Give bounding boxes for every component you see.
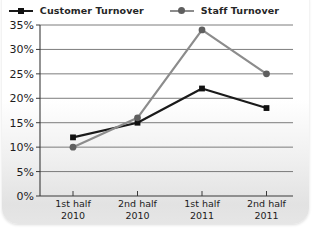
staff-turnover-point xyxy=(70,144,77,151)
y-axis-tick-label: 20% xyxy=(10,92,34,105)
customer-turnover-square-marker-icon xyxy=(9,6,33,16)
y-axis-tick-label: 10% xyxy=(10,141,34,154)
x-axis-category-label: 1st half2010 xyxy=(55,198,91,221)
x-axis-category-label: 1st half2011 xyxy=(184,198,220,221)
staff-turnover-point xyxy=(134,114,141,121)
customer-turnover-point xyxy=(199,86,205,92)
y-axis-tick-label: 25% xyxy=(10,68,34,81)
y-axis-tick-label: 35% xyxy=(10,19,34,32)
x-axis-category-label: 2nd half2010 xyxy=(118,198,158,221)
y-axis-tick-label: 30% xyxy=(10,43,34,56)
x-axis-category-label: 2nd half2011 xyxy=(247,198,287,221)
staff-turnover-circle-marker-icon xyxy=(170,6,194,16)
turnover-line-chart: 0%5%10%15%20%25%30%35%1st half20102nd ha… xyxy=(0,0,312,235)
customer-turnover-point xyxy=(264,105,270,111)
staff-turnover-point xyxy=(199,26,206,33)
y-axis-tick-label: 0% xyxy=(17,190,34,203)
y-axis-tick-label: 15% xyxy=(10,117,34,130)
chart-legend: Customer Turnover Staff Turnover xyxy=(0,5,300,16)
legend-item-staff-turnover: Staff Turnover xyxy=(170,5,279,16)
customer-turnover-point xyxy=(70,134,76,140)
customer-turnover-line xyxy=(73,89,267,138)
staff-turnover-point xyxy=(263,70,270,77)
staff-turnover-line xyxy=(73,30,267,147)
legend-item-customer-turnover: Customer Turnover xyxy=(9,5,144,16)
legend-label-customer-turnover: Customer Turnover xyxy=(40,5,144,16)
legend-label-staff-turnover: Staff Turnover xyxy=(201,5,279,16)
y-axis-tick-label: 5% xyxy=(17,166,34,179)
